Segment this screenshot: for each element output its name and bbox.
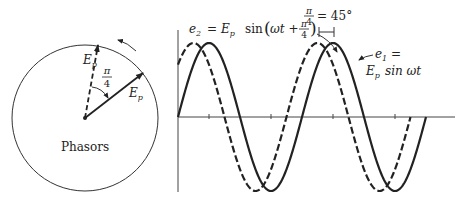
e1-lhs: e1 <box>375 47 387 63</box>
phase-frac-den: 4 <box>306 17 312 27</box>
e2-amplitude: Ep <box>220 22 235 38</box>
e1-amplitude: Ep <box>365 64 380 80</box>
phasor-waveform-figure: Ep Ep π 4 Phasors e2 = Ep sin ( ωt + π 4… <box>0 0 462 203</box>
phasors-caption: Phasors <box>61 140 109 154</box>
rotation-arrow-icon <box>118 40 136 51</box>
e2-sin: sin <box>245 22 263 36</box>
e2-argument: ωt + <box>270 22 298 36</box>
e2-equation-label: e2 = Ep sin ( ωt + π 4 ) <box>189 18 337 52</box>
phase-frac-num: π <box>305 6 313 16</box>
e1-equation-label: e1 = Ep sin ωt <box>359 47 421 80</box>
angle-label-den: 4 <box>104 78 110 89</box>
phase-rhs: = 45° <box>317 9 352 23</box>
e2-frac-den: 4 <box>301 30 307 40</box>
e1-pointer-arrow <box>359 55 373 60</box>
phasor-e2-label: Ep <box>82 53 97 69</box>
angle-label: π 4 <box>102 65 112 89</box>
phasor-e1-label: Ep <box>128 86 143 102</box>
e2-lhs: e2 <box>189 22 201 38</box>
angle-label-num: π <box>103 65 111 76</box>
e1-sin-wt: sin ωt <box>385 64 421 78</box>
phasor-diagram: Ep Ep π 4 Phasors <box>12 40 158 191</box>
phasor-origin <box>83 116 87 120</box>
e1-equals: = <box>391 47 401 61</box>
waveform-plot: e2 = Ep sin ( ωt + π 4 ) π 4 = 45° e1 = <box>178 6 455 192</box>
e2-equals: = <box>207 22 217 36</box>
